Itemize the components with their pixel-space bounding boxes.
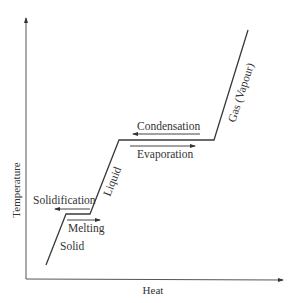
liquid-label: Liquid <box>101 165 125 199</box>
x-axis-label: Heat <box>143 284 164 296</box>
melting-label: Melting <box>68 222 105 235</box>
solidification-label: Solidification <box>33 194 96 206</box>
y-axis-label: Temperature <box>10 162 22 218</box>
solid-label: Solid <box>60 240 85 252</box>
heating-curve-diagram: Temperature Heat Solidification Melting … <box>0 0 297 303</box>
evaporation-label: Evaporation <box>137 148 193 161</box>
gas-label: Gas (Vapour) <box>225 61 256 124</box>
condensation-label: Condensation <box>137 120 200 132</box>
x-axis <box>26 279 283 280</box>
